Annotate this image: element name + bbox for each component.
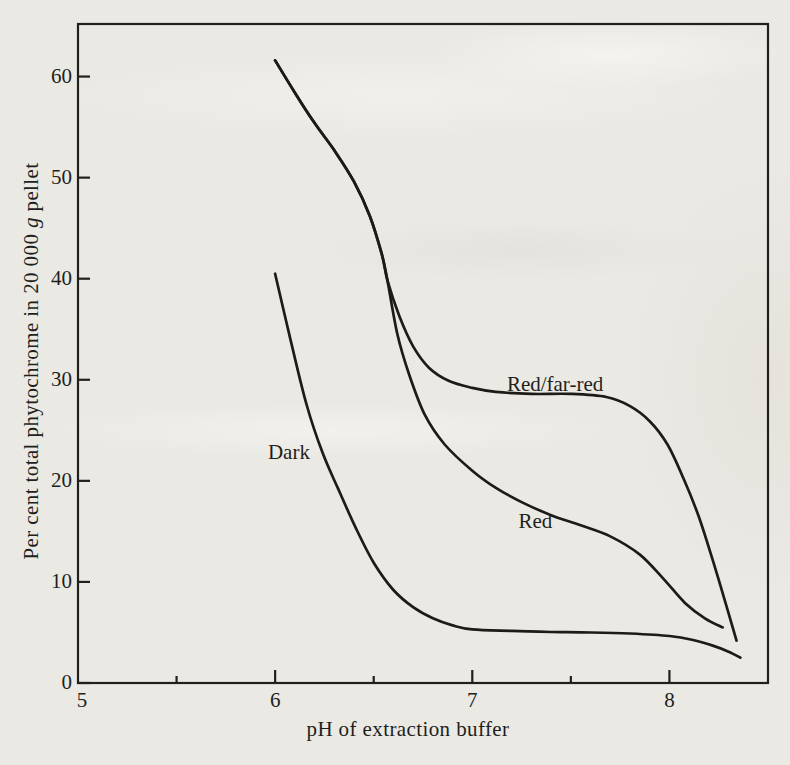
y-tick-label-10: 10 xyxy=(2,571,72,592)
curve-red xyxy=(275,60,723,627)
chart-canvas xyxy=(0,0,790,765)
scanned-figure-page: pH of extraction buffer Per cent total p… xyxy=(0,0,790,765)
x-tick-label-6: 6 xyxy=(270,690,281,711)
x-axis-title: pH of extraction buffer xyxy=(307,719,510,740)
plot-frame xyxy=(78,24,768,683)
y-tick-label-60: 60 xyxy=(2,66,72,87)
curve-dark xyxy=(275,274,740,658)
y-axis-title: Per cent total phytochrome in 20 000 g p… xyxy=(21,162,42,559)
curves-group xyxy=(275,60,740,657)
plot-frame-group xyxy=(78,24,768,683)
y-tick-label-0: 0 xyxy=(2,672,72,693)
y-tick-label-40: 40 xyxy=(2,268,72,289)
y-axis-title-italic-g: g xyxy=(19,217,43,228)
curve-label-dark: Dark xyxy=(268,441,310,462)
y-tick-label-30: 30 xyxy=(2,369,72,390)
x-tick-label-5: 5 xyxy=(77,690,88,711)
x-tick-label-8: 8 xyxy=(664,690,675,711)
curve-label-red: Red xyxy=(518,511,552,532)
y-tick-label-20: 20 xyxy=(2,470,72,491)
y-tick-label-50: 50 xyxy=(2,167,72,188)
x-tick-label-7: 7 xyxy=(467,690,478,711)
curve-label-red-far-red: Red/far-red xyxy=(507,373,603,394)
curve-red-far-red xyxy=(275,60,736,640)
